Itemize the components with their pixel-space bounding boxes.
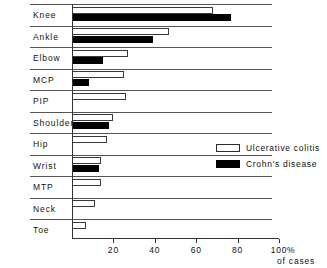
chart-row: Elbow [0, 47, 327, 69]
bar-ankle-cd [72, 36, 153, 43]
bar-toe-uc [72, 222, 86, 229]
x-axis-label: of cases [277, 256, 315, 266]
legend-swatch-crohns-disease [216, 160, 240, 168]
category-label-pip: PIP [33, 96, 49, 106]
legend-swatch-ulcerative-colitis [216, 144, 240, 152]
row-separator [30, 47, 272, 48]
chart-row: Ankle [0, 26, 327, 48]
legend: Ulcerative colitis Crohn's disease [216, 141, 320, 173]
bar-knee-uc [72, 7, 213, 14]
category-label-elbow: Elbow [33, 53, 61, 63]
category-label-ankle: Ankle [33, 32, 59, 42]
row-separator [30, 4, 272, 5]
row-separator [30, 112, 272, 113]
category-label-knee: Knee [33, 10, 56, 20]
category-label-mcp: MCP [33, 75, 55, 85]
chart-row: Neck [0, 198, 327, 220]
row-separator [30, 69, 272, 70]
bar-neck-uc [72, 200, 95, 207]
chart-row: Knee [0, 4, 327, 26]
x-tick-label-40: 40 [149, 245, 160, 255]
bar-wrist-cd [72, 165, 99, 172]
bar-mtp-uc [72, 179, 101, 186]
horizontal-bar-chart: KneeAnkleElbowMCPPIPShoulderHipWristMTPN… [0, 0, 327, 268]
bar-elbow-uc [72, 50, 128, 57]
chart-row: MCP [0, 69, 327, 91]
legend-label-ulcerative-colitis: Ulcerative colitis [246, 143, 320, 153]
x-tick-60 [196, 239, 197, 243]
x-tick-100 [279, 239, 280, 243]
bar-shoulder-uc [72, 114, 113, 121]
bar-pip-uc [72, 93, 126, 100]
category-label-neck: Neck [33, 204, 56, 214]
category-label-wrist: Wrist [33, 161, 57, 171]
bar-hip-uc [72, 136, 107, 143]
bar-knee-cd [72, 14, 231, 21]
bar-elbow-cd [72, 57, 103, 64]
row-separator [30, 198, 272, 199]
x-tick-label-80: 80 [232, 245, 243, 255]
row-separator [30, 176, 272, 177]
legend-item-ulcerative-colitis: Ulcerative colitis [216, 141, 320, 154]
row-separator [30, 219, 272, 220]
bar-shoulder-cd [72, 122, 109, 129]
row-separator [30, 133, 272, 134]
x-axis-line [72, 238, 279, 239]
legend-label-crohns-disease: Crohn's disease [246, 159, 317, 169]
row-separator [30, 26, 272, 27]
x-tick-label-100: 100 [271, 245, 288, 255]
category-label-toe: Toe [33, 225, 49, 235]
x-tick-label-20: 20 [108, 245, 119, 255]
plot-area: KneeAnkleElbowMCPPIPShoulderHipWristMTPN… [0, 0, 327, 268]
category-label-shoulder: Shoulder [33, 118, 74, 128]
category-label-mtp: MTP [33, 182, 54, 192]
bar-mcp-uc [72, 71, 124, 78]
category-label-hip: Hip [33, 139, 48, 149]
bar-mcp-cd [72, 79, 89, 86]
legend-item-crohns-disease: Crohn's disease [216, 157, 320, 170]
x-tick-label-60: 60 [191, 245, 202, 255]
y-axis-line [72, 4, 73, 238]
chart-row: MTP [0, 176, 327, 198]
x-axis-percent-symbol: % [287, 245, 295, 255]
x-tick-40 [155, 239, 156, 243]
x-tick-80 [238, 239, 239, 243]
bar-wrist-uc [72, 157, 101, 164]
chart-row: PIP [0, 90, 327, 112]
chart-row: Shoulder [0, 112, 327, 134]
x-tick-20 [113, 239, 114, 243]
row-separator [30, 90, 272, 91]
bar-ankle-uc [72, 28, 169, 35]
